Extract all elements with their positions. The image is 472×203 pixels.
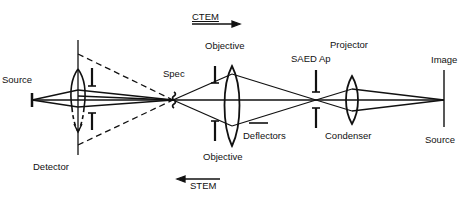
ray [232, 100, 316, 126]
ctem-arrowhead [232, 21, 240, 27]
objective-bottom-label: Objective [203, 152, 243, 162]
spec-label: Spec [163, 69, 185, 79]
source-left-label: Source [2, 75, 32, 85]
ray [173, 100, 232, 126]
ray [352, 100, 444, 111]
projector-label: Projector [330, 40, 368, 50]
ray [232, 74, 316, 100]
condenser-label: Condenser [325, 131, 371, 141]
source-right-label: Source [425, 135, 455, 145]
detector-label: Detector [33, 162, 69, 172]
ray [352, 89, 444, 100]
ctem-label: CTEM [192, 12, 219, 22]
image-label: Image [431, 55, 457, 65]
ray [78, 100, 173, 107]
objective-lens [225, 66, 240, 146]
saed-ap-label: SAED Ap [291, 54, 331, 64]
ray-diagram [0, 0, 472, 203]
stem-arrowhead [177, 176, 185, 182]
stem-label: STEM [190, 181, 216, 191]
objective-top-label: Objective [205, 41, 245, 51]
deflectors-label: Deflectors [243, 131, 286, 141]
